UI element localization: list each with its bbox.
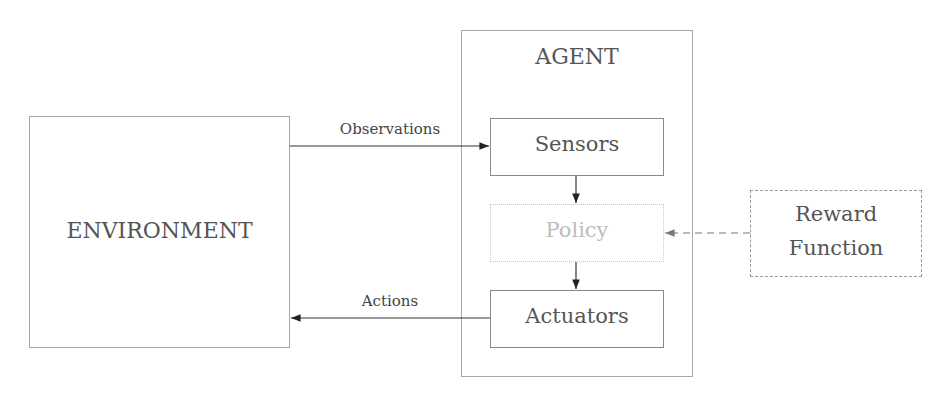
actions-label: Actions [340,292,440,310]
reward-label-line2: Function [750,236,922,260]
observations-label: Observations [320,120,460,138]
reward-label-line1: Reward [750,202,922,226]
environment-label: ENVIRONMENT [29,218,290,243]
policy-label: Policy [490,218,664,242]
agent-title: AGENT [461,44,693,69]
actuators-label: Actuators [490,304,664,328]
sensors-label: Sensors [490,132,664,156]
